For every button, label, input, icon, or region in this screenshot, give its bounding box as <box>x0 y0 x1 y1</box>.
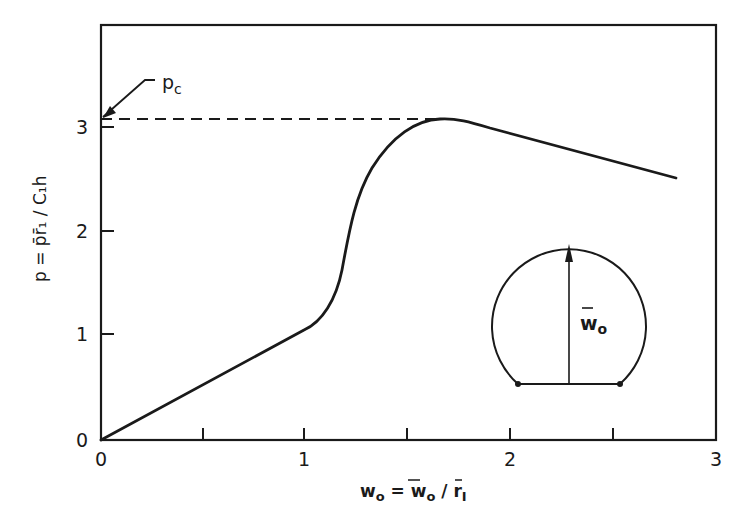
y-tick-label-3: 3 <box>76 116 88 138</box>
x-tick-label-2: 2 <box>504 448 516 470</box>
svg-text:pc: pc <box>162 71 182 97</box>
y-tick-label-0: 0 <box>76 429 88 451</box>
chart-svg: 0 1 2 3 0 1 2 3 wo = wo / rI p = p̄r̄₁ /… <box>0 0 747 529</box>
x-tick-label-0: 0 <box>95 448 107 470</box>
chart-figure: 0 1 2 3 0 1 2 3 wo = wo / rI p = p̄r̄₁ /… <box>0 0 747 529</box>
y-tick-label-1: 1 <box>76 323 88 345</box>
x-tick-label-1: 1 <box>298 448 310 470</box>
y-axis-label: p = p̄r̄₁ / C₁h <box>30 176 50 282</box>
plot-frame <box>101 25 716 440</box>
inset-label: wo <box>580 312 608 337</box>
pc-annotation: pc <box>103 71 182 118</box>
inset-diagram: wo <box>492 244 646 387</box>
up-arrow-icon <box>565 244 573 262</box>
x-axis-label: wo = wo / rI <box>360 480 467 504</box>
y-tick-label-2: 2 <box>76 220 88 242</box>
data-curve <box>101 119 676 440</box>
y-axis-ticks <box>101 127 114 334</box>
x-tick-label-3: 3 <box>710 448 722 470</box>
svg-text:wo = wo / rI: wo = wo / rI <box>360 481 467 504</box>
x-axis-ticks <box>203 428 613 440</box>
